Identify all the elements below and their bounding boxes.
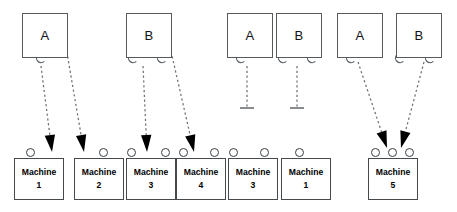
machine-name-label: Machine — [184, 166, 218, 179]
component-label: A — [41, 28, 50, 43]
component-box-a-5[interactable]: A — [337, 13, 383, 58]
machine-name-label: Machine — [376, 166, 410, 179]
connector-line — [143, 66, 146, 135]
machine-port-icon[interactable] — [26, 148, 35, 157]
connector-conn-b4-open[interactable] — [290, 66, 304, 108]
machine-number-label: 3 — [251, 179, 256, 192]
machine-port-icon[interactable] — [229, 148, 238, 157]
arrowhead-icon — [377, 130, 387, 148]
machine-port-icon[interactable] — [210, 148, 219, 157]
machine-port-icon[interactable] — [388, 148, 397, 157]
component-box-b-6[interactable]: B — [396, 13, 442, 58]
machine-number-label: 4 — [199, 179, 204, 192]
component-box-b-2[interactable]: B — [126, 13, 172, 58]
machine-name-label: Machine — [134, 166, 168, 179]
machine-number-label: 1 — [304, 179, 309, 192]
machine-node-5[interactable]: Machine3 — [228, 158, 278, 200]
connector-conn-b6-m5[interactable] — [400, 62, 424, 148]
deployment-diagram-canvas: ABABAB Machine1Machine2Machine3Machine4M… — [0, 0, 457, 212]
machine-number-label: 1 — [37, 179, 42, 192]
arrowhead-icon — [45, 134, 55, 152]
connector-conn-a1-m2[interactable] — [66, 47, 86, 152]
machine-name-label: Machine — [236, 166, 270, 179]
machine-node-4[interactable]: Machine4 — [176, 158, 226, 200]
component-box-b-4[interactable]: B — [276, 13, 322, 58]
arrowhead-icon — [76, 134, 86, 152]
machine-port-icon[interactable] — [371, 148, 380, 157]
machine-name-label: Machine — [22, 166, 56, 179]
connector-line — [405, 62, 424, 132]
machine-node-6[interactable]: Machine1 — [281, 158, 331, 200]
machine-port-icon[interactable] — [405, 148, 414, 157]
connector-conn-a1-m1[interactable] — [41, 66, 55, 152]
connector-line — [170, 47, 190, 135]
connector-conn-b2-m4[interactable] — [170, 47, 195, 152]
machine-port-icon[interactable] — [99, 148, 108, 157]
component-label: B — [145, 28, 154, 43]
component-label: A — [356, 28, 365, 43]
arrowhead-icon — [141, 135, 151, 152]
connector-conn-a5-m5[interactable] — [358, 62, 387, 148]
component-label: B — [415, 28, 424, 43]
connector-conn-b2-m3[interactable] — [141, 66, 151, 152]
machine-port-icon[interactable] — [295, 148, 304, 157]
connector-conn-a3-open[interactable] — [240, 66, 254, 108]
connector-line — [41, 66, 50, 135]
component-label: A — [246, 28, 255, 43]
machine-name-label: Machine — [289, 166, 323, 179]
machine-node-7[interactable]: Machine5 — [368, 158, 418, 200]
arrowhead-icon — [400, 130, 410, 148]
machine-number-label: 5 — [391, 179, 396, 192]
machine-port-icon[interactable] — [179, 148, 188, 157]
machine-number-label: 3 — [149, 179, 154, 192]
machine-node-2[interactable]: Machine2 — [74, 158, 124, 200]
component-label: B — [295, 28, 304, 43]
machine-port-icon[interactable] — [161, 148, 170, 157]
component-box-a-3[interactable]: A — [227, 13, 273, 58]
machine-name-label: Machine — [82, 166, 116, 179]
machine-node-3[interactable]: Machine3 — [126, 158, 176, 200]
machine-port-icon[interactable] — [260, 148, 269, 157]
connector-line — [66, 47, 81, 135]
machine-port-icon[interactable] — [127, 148, 136, 157]
machine-number-label: 2 — [97, 179, 102, 192]
component-box-a-1[interactable]: A — [22, 13, 68, 58]
machine-node-1[interactable]: Machine1 — [14, 158, 64, 200]
connector-line — [358, 62, 382, 132]
